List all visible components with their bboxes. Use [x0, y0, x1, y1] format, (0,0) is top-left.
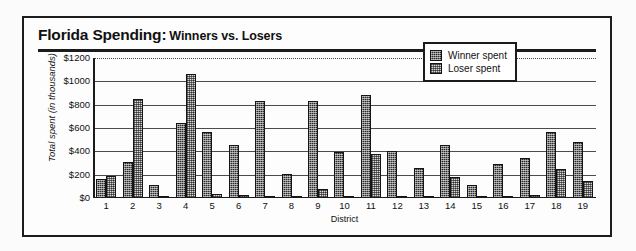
x-tick-label-4: 4 — [172, 200, 198, 211]
bar-group-district-3 — [146, 58, 172, 198]
bar-group-district-12 — [384, 58, 410, 198]
x-tick-label-9: 9 — [305, 200, 331, 211]
chart-legend: Winner spent Loser spent — [423, 42, 517, 82]
loser-swatch-icon — [430, 63, 442, 74]
loser-bar — [186, 74, 196, 198]
legend-item-loser: Loser spent — [430, 63, 507, 74]
x-tick-label-19: 19 — [569, 200, 595, 211]
winner-bar — [123, 162, 133, 198]
winner-bar — [414, 168, 424, 198]
winner-bar — [176, 123, 186, 198]
x-axis-label: District — [93, 214, 596, 224]
winner-bar — [573, 142, 583, 198]
loser-bar — [583, 181, 593, 199]
bar-group-district-18 — [543, 58, 569, 198]
x-tick-label-6: 6 — [225, 200, 251, 211]
x-tick-label-1: 1 — [93, 200, 119, 211]
bar-group-district-4 — [172, 58, 198, 198]
legend-label-loser: Loser spent — [448, 63, 500, 74]
y-tick-label: $1000 — [30, 75, 90, 86]
x-tick-label-5: 5 — [199, 200, 225, 211]
winner-bar — [229, 145, 239, 198]
bar-group-district-7 — [252, 58, 278, 198]
bar-group-district-1 — [93, 58, 119, 198]
winner-bar — [361, 95, 371, 198]
x-tick-label-7: 7 — [252, 200, 278, 211]
bar-group-district-9 — [305, 58, 331, 198]
x-tick-label-16: 16 — [490, 200, 516, 211]
plot-area: $0$200$400$600$800$1000$1200 — [93, 58, 596, 198]
loser-bar — [133, 99, 143, 198]
x-tick-label-2: 2 — [119, 200, 145, 211]
x-tick-label-10: 10 — [331, 200, 357, 211]
bar-group-district-2 — [119, 58, 145, 198]
loser-bar — [556, 169, 566, 198]
winner-bar — [493, 164, 503, 198]
chart-figure-frame: Florida Spending:Winners vs. Losers Tota… — [22, 16, 612, 237]
loser-bar — [450, 177, 460, 198]
winner-bar — [440, 145, 450, 198]
winner-bar — [334, 152, 344, 198]
chart-title: Florida Spending:Winners vs. Losers — [38, 26, 282, 44]
legend-item-winner: Winner spent — [430, 50, 507, 61]
bar-group-district-6 — [225, 58, 251, 198]
loser-bar — [371, 154, 381, 198]
bar-groups — [93, 58, 596, 198]
winner-bar — [282, 174, 292, 198]
x-tick-label-18: 18 — [543, 200, 569, 211]
x-axis-baseline — [93, 197, 596, 199]
bar-group-district-17 — [517, 58, 543, 198]
winner-bar — [387, 151, 397, 198]
y-tick-label: $1200 — [30, 52, 90, 63]
bar-group-district-8 — [278, 58, 304, 198]
bar-group-district-10 — [331, 58, 357, 198]
winner-bar — [546, 132, 556, 199]
y-tick-label: $600 — [30, 122, 90, 133]
x-tick-label-12: 12 — [384, 200, 410, 211]
y-tick-label: $0 — [30, 192, 90, 203]
chart-title-sub: Winners vs. Losers — [169, 29, 282, 43]
winner-bar — [255, 101, 265, 198]
bar-group-district-5 — [199, 58, 225, 198]
y-tick-label: $800 — [30, 99, 90, 110]
legend-label-winner: Winner spent — [448, 50, 507, 61]
x-axis-tick-labels: 12345678910111213141516171819 — [93, 200, 596, 211]
x-tick-label-17: 17 — [517, 200, 543, 211]
bar-group-district-19 — [569, 58, 595, 198]
y-tick-label: $400 — [30, 145, 90, 156]
winner-bar — [202, 132, 212, 199]
x-tick-label-8: 8 — [278, 200, 304, 211]
y-tick-label: $200 — [30, 169, 90, 180]
y-axis-line — [93, 58, 95, 198]
loser-bar — [106, 176, 116, 198]
bar-group-district-11 — [358, 58, 384, 198]
x-tick-label-11: 11 — [358, 200, 384, 211]
winner-bar — [520, 158, 530, 198]
winner-bar — [96, 179, 106, 198]
chart-title-main: Florida Spending: — [38, 26, 166, 43]
x-tick-label-15: 15 — [464, 200, 490, 211]
winner-swatch-icon — [430, 50, 442, 61]
x-tick-label-13: 13 — [411, 200, 437, 211]
x-tick-label-3: 3 — [146, 200, 172, 211]
winner-bar — [308, 101, 318, 198]
x-tick-label-14: 14 — [437, 200, 463, 211]
